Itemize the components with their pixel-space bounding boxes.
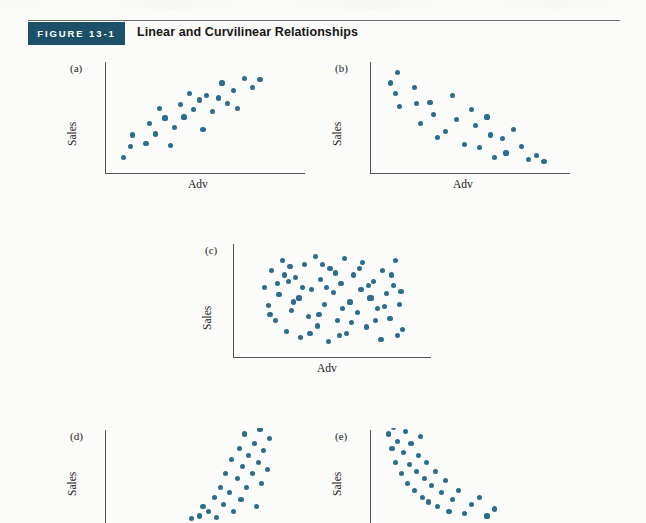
data-point xyxy=(121,155,126,160)
y-axis-line-e xyxy=(370,430,371,523)
data-point xyxy=(541,159,546,164)
data-point xyxy=(322,302,327,307)
data-point xyxy=(212,495,217,500)
data-point xyxy=(416,453,421,458)
data-point xyxy=(477,495,482,500)
data-point xyxy=(492,506,497,511)
data-point xyxy=(526,157,531,162)
data-point xyxy=(357,266,362,271)
data-point xyxy=(347,299,352,304)
data-point xyxy=(378,337,383,342)
data-point xyxy=(157,106,162,111)
plot-area-a xyxy=(108,64,298,170)
data-point xyxy=(333,270,338,275)
data-point xyxy=(389,446,394,451)
data-point xyxy=(242,76,247,81)
y-axis-label-b: Sales xyxy=(331,122,343,146)
data-point xyxy=(262,285,267,290)
y-axis-line-d xyxy=(105,430,106,523)
data-point xyxy=(503,150,508,155)
data-point xyxy=(153,131,158,136)
data-point xyxy=(223,471,228,476)
data-point xyxy=(469,107,474,112)
data-point xyxy=(300,285,305,290)
data-point xyxy=(414,101,419,106)
data-point xyxy=(435,504,440,509)
data-point xyxy=(210,109,215,114)
data-point xyxy=(443,129,448,134)
data-point xyxy=(162,115,167,120)
data-point xyxy=(403,429,408,434)
data-point xyxy=(450,93,455,98)
data-point xyxy=(306,314,311,319)
data-point xyxy=(371,279,376,284)
data-point xyxy=(342,256,347,261)
data-point xyxy=(429,483,434,488)
data-point xyxy=(265,467,270,472)
data-point xyxy=(420,495,425,500)
data-point xyxy=(519,144,524,149)
data-point xyxy=(351,272,356,277)
y-axis-line-b xyxy=(370,62,371,174)
x-axis-label-c: Adv xyxy=(317,362,337,374)
x-axis-label-b: Adv xyxy=(453,178,473,190)
figure-number-label: Figure 13-1 xyxy=(37,28,115,39)
data-point xyxy=(324,285,329,290)
data-point xyxy=(240,464,245,469)
data-point xyxy=(318,277,323,282)
data-point xyxy=(400,327,405,332)
data-point xyxy=(189,516,194,521)
data-point xyxy=(426,499,431,504)
data-point xyxy=(454,117,459,122)
data-point xyxy=(254,504,259,509)
data-point xyxy=(407,462,412,467)
data-point xyxy=(244,485,249,490)
data-point xyxy=(393,258,398,263)
data-point xyxy=(259,481,264,486)
data-point xyxy=(296,295,301,300)
data-point xyxy=(484,513,489,518)
data-point xyxy=(231,509,236,514)
data-point xyxy=(431,112,436,117)
data-point xyxy=(337,333,342,338)
data-point xyxy=(488,132,493,137)
data-point xyxy=(335,318,340,323)
data-point xyxy=(276,292,281,297)
panel-letter-a: (a) xyxy=(70,62,82,74)
data-point xyxy=(327,266,332,271)
panel-letter-e: (e) xyxy=(335,430,347,442)
data-point xyxy=(424,460,429,465)
data-point xyxy=(534,153,539,158)
data-point xyxy=(320,262,325,267)
data-point xyxy=(395,70,400,75)
data-point xyxy=(200,127,205,132)
data-point xyxy=(246,453,251,458)
data-point xyxy=(366,283,371,288)
data-point xyxy=(128,144,133,149)
data-point xyxy=(500,136,505,141)
x-axis-label-a: Adv xyxy=(188,178,208,190)
data-point xyxy=(391,428,396,430)
data-point xyxy=(412,488,417,493)
data-point xyxy=(395,439,400,444)
data-point xyxy=(395,333,400,338)
data-point xyxy=(405,481,410,486)
data-point xyxy=(309,287,314,292)
data-point xyxy=(200,504,205,509)
data-point xyxy=(355,310,360,315)
y-axis-label-c: Sales xyxy=(201,306,213,330)
data-point xyxy=(204,93,209,98)
scan-artifact xyxy=(0,0,646,9)
data-point xyxy=(218,485,223,490)
scatter-panel-a: (a) Sales Adv xyxy=(60,58,320,198)
data-point xyxy=(275,281,280,286)
data-point xyxy=(369,295,374,300)
x-axis-line-b xyxy=(370,173,570,174)
data-point xyxy=(181,114,186,119)
y-axis-label-a: Sales xyxy=(66,122,78,146)
plot-area-d xyxy=(108,428,298,523)
scatter-panel-b: (b) Sales Adv xyxy=(325,58,585,198)
data-point xyxy=(293,275,298,280)
data-point xyxy=(280,258,285,263)
data-point xyxy=(388,80,393,85)
